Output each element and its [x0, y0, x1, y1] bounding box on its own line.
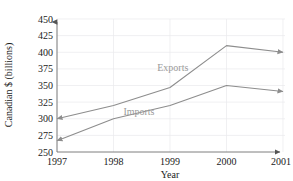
- y-tick-label: 400: [38, 47, 53, 58]
- series-annotation-imports: Imports: [123, 106, 154, 117]
- series-annotation-exports: Exports: [157, 62, 188, 73]
- x-tick-label: 2001: [271, 156, 291, 167]
- x-axis-title: Year: [161, 169, 180, 180]
- y-tick-label: 300: [38, 113, 53, 124]
- y-tick-label: 325: [38, 97, 53, 108]
- y-tick-label: 450: [38, 14, 53, 25]
- y-axis-title: Canadian $ (billions): [3, 43, 15, 127]
- line-chart: 450 425 400 375 350 325 300 275 250 1997…: [0, 0, 293, 181]
- x-axis-tick-labels: 1997 1998 1999 2000 2001: [47, 156, 291, 167]
- gridlines-horizontal: [57, 19, 285, 135]
- x-tick-label: 1997: [47, 156, 67, 167]
- x-tick-label: 1999: [160, 156, 180, 167]
- chart-container: 450 425 400 375 350 325 300 275 250 1997…: [0, 0, 293, 181]
- y-tick-label: 275: [38, 130, 53, 141]
- y-tick-label: 425: [38, 30, 53, 41]
- x-tick-label: 2000: [217, 156, 237, 167]
- y-tick-label: 350: [38, 80, 53, 91]
- y-axis-tick-labels: 450 425 400 375 350 325 300 275 250: [38, 14, 53, 158]
- x-tick-label: 1998: [104, 156, 124, 167]
- y-tick-label: 375: [38, 63, 53, 74]
